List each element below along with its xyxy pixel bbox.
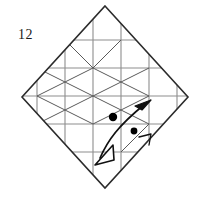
step-number-label: 12 [18,28,33,42]
reference-dot-large [109,113,117,121]
reference-dot-small [131,128,138,135]
origami-figure: 12 [0,0,203,197]
